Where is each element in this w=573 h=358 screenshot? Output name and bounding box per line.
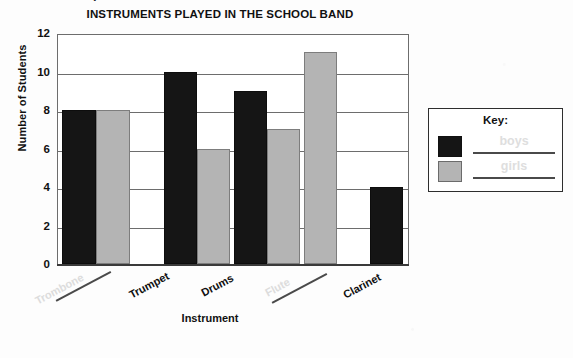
legend-swatch-boys — [438, 136, 462, 157]
y-tick-10: 10 — [24, 66, 50, 78]
answer-blank-legend-boys[interactable] — [473, 152, 555, 154]
x-axis-baseline — [57, 264, 409, 266]
legend-label-girls: girls — [473, 159, 555, 173]
y-tick-0: 0 — [24, 258, 50, 270]
y-tick-2: 2 — [24, 220, 50, 232]
bar-clarinet-boys — [370, 187, 403, 264]
y-axis-ticks: 12 10 8 6 4 2 0 — [22, 0, 50, 290]
y-tick-8: 8 — [24, 104, 50, 116]
legend-title: Key: — [429, 114, 562, 126]
y-tick-4: 4 — [24, 181, 50, 193]
y-tick-12: 12 — [24, 27, 50, 39]
legend-swatch-girls — [438, 161, 462, 182]
x-label-trumpet: Trumpet — [127, 270, 171, 301]
bar-trombone-girls — [96, 110, 130, 264]
bar-trombone-boys — [62, 110, 96, 264]
legend-key-box: Key: boys girls — [428, 108, 563, 192]
bar-flute-girls — [304, 52, 337, 264]
chart-page: p INSTRUMENTS PLAYED IN THE SCHOOL BAND … — [0, 0, 573, 358]
plot-area-wrapper: Number of Students 12 10 8 6 4 2 0 — [0, 0, 440, 290]
legend-label-boys: boys — [473, 134, 555, 148]
x-label-drums: Drums — [199, 272, 235, 299]
bar-series-container — [58, 35, 408, 264]
bar-trumpet-girls — [197, 149, 230, 265]
bar-trumpet-boys — [164, 72, 197, 265]
bar-drums-girls — [267, 129, 300, 264]
plot-frame — [57, 34, 409, 265]
answer-blank-legend-girls[interactable] — [473, 177, 555, 179]
y-tick-6: 6 — [24, 143, 50, 155]
x-axis-label: Instrument — [130, 312, 290, 324]
bar-drums-boys — [234, 91, 267, 264]
x-label-clarinet: Clarinet — [341, 271, 383, 301]
